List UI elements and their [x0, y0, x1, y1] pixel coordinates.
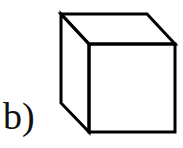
cube-drawing: [0, 0, 183, 148]
cube-front-face: [89, 44, 175, 132]
cube-top-face: [61, 14, 175, 44]
cube-left-face: [61, 14, 89, 132]
